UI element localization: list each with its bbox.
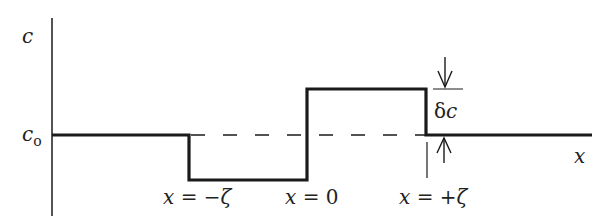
c0-label-subscript: o	[33, 133, 41, 149]
c0-label-main: c	[22, 122, 33, 146]
tick-label-zero: x = 0	[285, 185, 339, 209]
y-axis-label: c	[22, 24, 33, 48]
tick-label-plus-zeta: x = +ζ	[399, 185, 469, 209]
delta-symbol: δ	[434, 99, 446, 123]
arrow-up-icon	[437, 138, 451, 163]
delta-c-label: δc	[434, 99, 457, 123]
x-axis-label: x	[574, 144, 585, 168]
tick-label-minus-zeta: x = −ζ	[163, 185, 233, 209]
delta-var: c	[446, 99, 457, 123]
arrow-down-icon	[438, 57, 452, 87]
c0-label: co	[22, 122, 42, 149]
step-profile-diagram: c x co δc x = −ζ x = 0 x = +ζ	[0, 0, 616, 223]
